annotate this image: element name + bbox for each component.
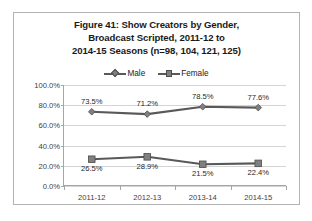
- data-label-male-3: 77.6%: [247, 93, 269, 102]
- data-point-female-1[interactable]: [144, 154, 151, 161]
- legend-label-male: Male: [127, 69, 145, 78]
- x-axis-tick-label: 2012-13: [133, 193, 161, 202]
- y-axis-tick-label: 80.0%: [38, 101, 60, 110]
- data-point-male-0[interactable]: [88, 108, 95, 115]
- series-line-female: [92, 157, 259, 164]
- data-label-male-2: 78.5%: [192, 92, 214, 101]
- data-point-male-1[interactable]: [144, 111, 151, 118]
- x-axis-tick-label: 2014-15: [244, 193, 272, 202]
- data-label-male-0: 73.5%: [81, 97, 103, 106]
- data-point-female-3[interactable]: [255, 160, 262, 167]
- diamond-marker-icon: [104, 69, 126, 78]
- figure-frame: Figure 41: Show Creators by Gender, Broa…: [13, 12, 300, 205]
- data-label-female-3: 22.4%: [247, 168, 269, 177]
- x-axis-tick-mark: [231, 186, 232, 190]
- y-axis-tick-label: 100.0%: [34, 81, 60, 90]
- data-point-female-2[interactable]: [199, 161, 206, 168]
- chart-title-line-2: Broadcast Scripted, 2011-12 to: [14, 31, 299, 44]
- x-axis-tick-mark: [175, 186, 176, 190]
- chart-title-line-3: 2014-15 Seasons (n=98, 104, 121, 125): [14, 44, 299, 57]
- chart-title-line-1: Figure 41: Show Creators by Gender,: [14, 18, 299, 31]
- x-axis-tick-mark: [286, 186, 287, 190]
- data-label-male-1: 71.2%: [136, 99, 158, 108]
- x-axis-tick-mark: [64, 186, 65, 190]
- data-label-female-0: 26.5%: [81, 164, 103, 173]
- square-marker-icon: [158, 69, 180, 78]
- data-point-male-3[interactable]: [255, 104, 262, 111]
- legend-item-male[interactable]: Male: [104, 69, 145, 78]
- x-axis-tick-mark: [120, 186, 121, 190]
- series-line-male: [92, 107, 259, 114]
- data-point-male-2[interactable]: [199, 103, 206, 110]
- y-axis-tick-label: 40.0%: [38, 141, 60, 150]
- data-label-female-1: 28.9%: [136, 162, 158, 171]
- plot-area: 0.0%20.0%40.0%60.0%80.0%100.0% 2011-1220…: [64, 85, 286, 186]
- plot-wrapper: 0.0%20.0%40.0%60.0%80.0%100.0% 2011-1220…: [14, 83, 301, 206]
- y-axis-tick-label: 20.0%: [38, 161, 60, 170]
- y-axis-tick-label: 60.0%: [38, 121, 60, 130]
- data-label-female-2: 21.5%: [192, 169, 214, 178]
- legend-label-female: Female: [181, 69, 208, 78]
- legend-item-female[interactable]: Female: [158, 69, 208, 78]
- x-axis-tick-label: 2013-14: [189, 193, 217, 202]
- x-axis-tick-label: 2011-12: [78, 193, 105, 202]
- y-axis-tick-label: 0.0%: [43, 182, 60, 191]
- chart-title: Figure 41: Show Creators by Gender, Broa…: [14, 18, 299, 58]
- chart-legend: Male Female: [14, 69, 299, 78]
- data-point-female-0[interactable]: [88, 156, 95, 163]
